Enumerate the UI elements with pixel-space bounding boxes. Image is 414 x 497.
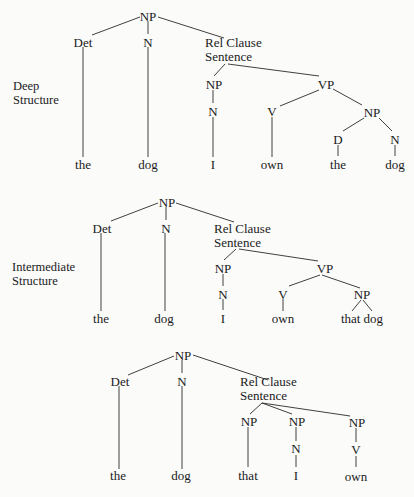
node-v: V [267, 104, 277, 119]
leaf-word: the [75, 157, 91, 172]
node-np-subject: NP [206, 77, 223, 92]
node-v: V [351, 442, 361, 457]
leaf-word: own [261, 157, 284, 172]
node-sentence: Sentence [205, 49, 252, 64]
syntax-tree-diagram: NP Det N Rel Clause Sentence NP VP N V N… [0, 0, 414, 497]
node-rel-clause: Rel Clause [240, 374, 297, 389]
leaf-word: own [345, 469, 368, 484]
node-np-verb: NP [349, 415, 366, 430]
leaf-word: I [294, 468, 298, 483]
node-np-object: NP [354, 287, 371, 302]
leaf-word: that [238, 468, 258, 483]
node-n: N [177, 374, 187, 389]
node-np-subject: NP [215, 261, 232, 276]
leaf-word: the [110, 468, 126, 483]
leaf-word: the [330, 157, 346, 172]
node-np-root: NP [175, 348, 192, 363]
deep-structure-label-line1: Deep [13, 79, 39, 93]
leaf-word: I [221, 311, 225, 326]
node-rel-clause: Rel Clause [205, 35, 262, 50]
leaf-word: dog [138, 157, 158, 172]
node-sentence: Sentence [240, 388, 287, 403]
node-v: V [278, 287, 288, 302]
node-np-root: NP [140, 9, 157, 24]
leaf-word: own [272, 311, 295, 326]
node-rel-clause: Rel Clause [214, 221, 271, 236]
node-vp: VP [318, 77, 335, 92]
node-n: N [161, 221, 171, 236]
intermediate-structure-label-line2: Structure [12, 274, 58, 288]
deep-structure-label-line2: Structure [13, 93, 59, 107]
node-np-root: NP [159, 195, 176, 210]
intermediate-structure-label-line1: Intermediate [12, 260, 76, 274]
node-det: Det [111, 374, 130, 389]
node-n-subject: N [218, 287, 228, 302]
node-np-subject: NP [289, 414, 306, 429]
surface-structure-tree: NP Det N Rel Clause Sentence NP NP NP N … [110, 348, 368, 484]
node-vp: VP [317, 261, 334, 276]
intermediate-structure-tree: NP Det N Rel Clause Sentence NP VP N V N… [93, 195, 384, 326]
node-d-object: D [333, 132, 342, 147]
node-n-subject: N [208, 104, 218, 119]
leaf-word: the [93, 311, 109, 326]
leaf-word: I [211, 157, 215, 172]
node-np-object: NP [364, 105, 381, 120]
node-np-that: NP [241, 414, 258, 429]
deep-structure-tree: NP Det N Rel Clause Sentence NP VP N V N… [74, 9, 406, 172]
node-sentence: Sentence [214, 235, 261, 250]
leaf-word: dog [385, 157, 405, 172]
leaf-word: dog [171, 468, 191, 483]
node-n-subject: N [291, 441, 301, 456]
node-det: Det [74, 35, 93, 50]
leaf-word: that dog [341, 311, 384, 326]
node-det: Det [93, 221, 112, 236]
node-n: N [143, 35, 153, 50]
node-n-object: N [390, 132, 400, 147]
leaf-word: dog [154, 311, 174, 326]
